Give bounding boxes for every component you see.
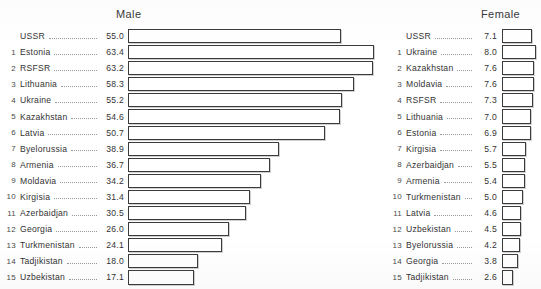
male-row: 12Georgia26.0 (0, 221, 128, 237)
female-bar (502, 45, 536, 59)
male-row-name: Tadjikistan (20, 256, 63, 266)
female-label-column: USSR7.11Ukraine8.02Kazakhstan7.63Moldavi… (386, 28, 502, 286)
male-bar-slot (128, 125, 384, 141)
female-bar-slot (502, 141, 538, 157)
male-row-name: Armenia (20, 160, 54, 170)
male-row: 2RSFSR63.2 (0, 60, 128, 76)
male-panel-title: Male (116, 8, 141, 20)
female-row-value: 3.8 (475, 256, 502, 266)
male-row: 3Lithuania58.3 (0, 76, 128, 92)
female-bar-slot (502, 205, 538, 221)
male-bar (128, 45, 374, 59)
male-bar (128, 109, 340, 123)
leader-dots (457, 70, 472, 71)
female-row-value: 6.9 (475, 128, 502, 138)
male-row-name: Byelorussia (20, 144, 67, 154)
leader-dots (453, 279, 472, 280)
male-bar (128, 142, 279, 156)
female-bar-slot (502, 92, 538, 108)
female-row-rank: 2 (386, 64, 406, 73)
male-row-name: RSFSR (20, 63, 50, 73)
male-row-value: 38.9 (100, 144, 128, 154)
male-bar-slot (128, 221, 384, 237)
male-bar (128, 206, 246, 220)
leader-dots (455, 231, 472, 232)
leader-dots (67, 263, 97, 264)
female-panel-title: Female (481, 8, 520, 20)
female-row-value: 7.3 (475, 95, 502, 105)
male-row: 4Ukraine55.2 (0, 92, 128, 108)
leader-dots (55, 102, 97, 103)
male-row-value: 63.2 (100, 63, 128, 73)
female-row: 6Estonia6.9 (386, 125, 502, 141)
female-row-value: 4.2 (475, 240, 502, 250)
male-row: 1Estonia63.4 (0, 44, 128, 60)
male-row-name: Turkmenistan (20, 240, 75, 250)
female-row: 1Ukraine8.0 (386, 44, 502, 60)
female-row: 13Byelorussia4.2 (386, 237, 502, 253)
leader-dots (69, 279, 97, 280)
male-bar-plot (128, 28, 384, 270)
male-row-rank: 1 (0, 48, 20, 57)
female-bar (502, 206, 521, 220)
male-row-name: Moldavia (20, 176, 56, 186)
male-row-name: Kirgisia (20, 192, 50, 202)
female-row-name: Kazakhstan (406, 63, 453, 73)
female-bar (502, 222, 521, 236)
female-row-value: 7.6 (475, 79, 502, 89)
female-row-value: 4.5 (475, 224, 502, 234)
female-row-rank: 5 (386, 112, 406, 121)
female-bar-slot (502, 60, 538, 76)
female-row-name: RSFSR (406, 95, 436, 105)
leader-dots (440, 102, 472, 103)
male-row-name: Azerbaidjan (20, 208, 68, 218)
female-row-value: 7.0 (475, 112, 502, 122)
male-row-name: Lithuania (20, 79, 57, 89)
figure-canvas: Male Female USSR55.01Estonia63.42RSFSR63… (0, 0, 541, 289)
female-row-name: Byelorussia (406, 240, 453, 250)
male-bar-slot (128, 253, 384, 269)
male-row-rank: 11 (0, 209, 20, 218)
male-row-value: 36.7 (100, 160, 128, 170)
leader-dots (49, 38, 97, 39)
leader-dots (60, 182, 97, 183)
male-row-value: 63.4 (100, 47, 128, 57)
male-row-value: 50.7 (100, 128, 128, 138)
female-row-name: Moldavia (406, 79, 442, 89)
female-row-name: Georgia (406, 256, 438, 266)
male-bar-slot (128, 237, 384, 253)
male-row-value: 54.6 (100, 112, 128, 122)
male-row-name: USSR (20, 31, 45, 41)
female-row-name: USSR (406, 31, 431, 41)
male-bar-slot (128, 189, 384, 205)
leader-dots (58, 166, 97, 167)
female-row-name: Tadjikistan (406, 272, 449, 282)
male-row-value: 26.0 (100, 224, 128, 234)
male-bar (128, 254, 198, 268)
female-bar-slot (502, 269, 538, 285)
male-row: 9Moldavia34.2 (0, 173, 128, 189)
female-bar-slot (502, 189, 538, 205)
female-row-rank: 6 (386, 128, 406, 137)
female-row: 2Kazakhstan7.6 (386, 60, 502, 76)
female-row-value: 4.6 (475, 208, 502, 218)
male-row: 15Uzbekistan17.1 (0, 269, 128, 285)
male-row-rank: 5 (0, 112, 20, 121)
male-row-name: Kazakhstan (20, 112, 67, 122)
female-row-rank: 8 (386, 160, 406, 169)
female-row: 4RSFSR7.3 (386, 92, 502, 108)
female-row-rank: 10 (386, 192, 406, 201)
male-row-value: 30.5 (100, 208, 128, 218)
leader-dots (61, 86, 97, 87)
female-row-value: 7.6 (475, 63, 502, 73)
female-row-name: Ukraine (406, 47, 437, 57)
female-row-value: 5.7 (475, 144, 502, 154)
male-bar-slot (128, 44, 384, 60)
female-bar (502, 254, 518, 268)
female-bar (502, 29, 532, 43)
leader-dots (54, 54, 97, 55)
male-row: 7Byelorussia38.9 (0, 141, 128, 157)
male-row: 11Azerbaidjan30.5 (0, 205, 128, 221)
female-row: 9Armenia5.4 (386, 173, 502, 189)
female-bar-slot (502, 125, 538, 141)
